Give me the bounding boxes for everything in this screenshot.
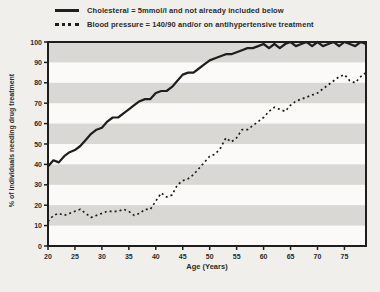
x-tick-label: 40 xyxy=(152,253,160,260)
x-tick-label: 75 xyxy=(341,253,349,260)
x-tick-label: 20 xyxy=(44,253,52,260)
y-tick-label: 20 xyxy=(34,202,42,209)
x-tick-label: 30 xyxy=(98,253,106,260)
y-tick-label: 0 xyxy=(38,243,42,250)
x-tick-label: 25 xyxy=(71,253,79,260)
x-tick-label: 65 xyxy=(287,253,295,260)
stripe-band xyxy=(48,164,366,184)
y-tick-label: 60 xyxy=(34,120,42,127)
x-tick-label: 55 xyxy=(233,253,241,260)
x-tick-label: 70 xyxy=(314,253,322,260)
x-tick-label: 35 xyxy=(125,253,133,260)
y-tick-label: 30 xyxy=(34,181,42,188)
y-tick-label: 100 xyxy=(30,39,42,46)
y-tick-label: 90 xyxy=(34,59,42,66)
x-tick-label: 60 xyxy=(260,253,268,260)
y-axis-title: % of individuals needing drug treatment xyxy=(8,66,15,216)
y-tick-label: 80 xyxy=(34,79,42,86)
chart-figure: Cholesteral = 5mmol/l and not already in… xyxy=(0,0,380,292)
x-axis-title: Age (Years) xyxy=(48,262,366,271)
y-tick-label: 10 xyxy=(34,222,42,229)
x-tick-label: 50 xyxy=(206,253,214,260)
y-tick-label: 70 xyxy=(34,100,42,107)
y-tick-label: 50 xyxy=(34,141,42,148)
y-tick-label: 40 xyxy=(34,161,42,168)
stripe-band xyxy=(48,124,366,144)
chart-plot: 0102030405060708090100202530354045505560… xyxy=(0,0,380,292)
stripe-band xyxy=(48,42,366,62)
x-tick-label: 45 xyxy=(179,253,187,260)
